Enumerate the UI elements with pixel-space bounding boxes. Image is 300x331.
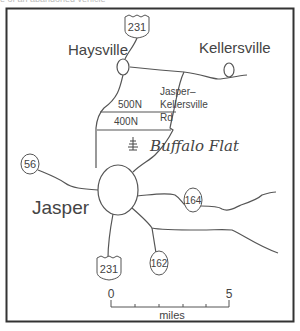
scale-unit-label: miles (159, 309, 185, 321)
road-sr164 (137, 192, 276, 210)
map: 231 231 56 164 162 Haysville Kellersvill… (0, 0, 300, 331)
road-southeast (132, 208, 278, 253)
sr164-shield: 164 (184, 188, 202, 212)
svg-text:56: 56 (24, 158, 36, 170)
buffalo-flat-symbol-icon (128, 137, 138, 150)
place-label-buffalo-flat: Buffalo Flat (149, 137, 240, 155)
jasper-marker (98, 165, 138, 215)
scale-min-label: 0 (108, 287, 115, 301)
road-sr56 (38, 170, 98, 190)
haysville-marker (117, 59, 129, 75)
us231-north-shield: 231 (125, 15, 149, 38)
road-label-jk-3: Rd (160, 112, 173, 123)
road-us231-south (108, 214, 113, 258)
scale-max-label: 5 (226, 287, 233, 301)
road-label-500n: 500N (118, 99, 142, 110)
town-label-kellersville: Kellersville (199, 39, 271, 56)
road-label-jk-1: Jasper– (160, 86, 196, 97)
road-label-400n: 400N (114, 116, 138, 127)
sr56-shield: 56 (21, 154, 39, 174)
town-label-haysville: Haysville (68, 41, 128, 58)
svg-text:231: 231 (100, 263, 118, 275)
kellersville-marker (224, 63, 234, 77)
sr162-shield: 162 (150, 251, 168, 275)
road-label-jk-2: Kellersville (160, 99, 208, 110)
scale-bar: 0 5 miles (108, 287, 233, 321)
us231-south-shield: 231 (97, 256, 121, 280)
road-sr162 (152, 228, 156, 253)
svg-text:164: 164 (185, 195, 202, 206)
svg-text:162: 162 (151, 258, 168, 269)
town-label-jasper: Jasper (32, 197, 90, 218)
svg-text:231: 231 (128, 21, 146, 33)
